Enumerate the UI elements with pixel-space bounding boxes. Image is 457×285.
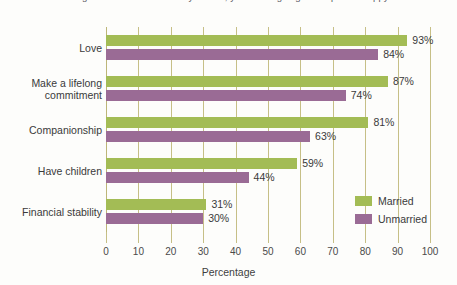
x-tick-100 <box>430 232 431 243</box>
category-label-line: Financial stability <box>0 206 102 218</box>
bar-value-label-unmarried-4: 30% <box>208 213 229 224</box>
bar-value-label-married-0: 93% <box>412 35 433 46</box>
x-tick-label-60: 60 <box>295 246 306 257</box>
x-tick-20 <box>171 232 172 243</box>
bar-married-1[interactable] <box>106 76 388 87</box>
bar-value-label-unmarried-0: 84% <box>383 49 404 60</box>
legend-label-married: Married <box>378 195 414 207</box>
bar-value-label-married-3: 59% <box>302 158 323 169</box>
grouped-bar-chart: 93%84%87%74%81%63%59%44%31%30% 010203040… <box>0 0 457 285</box>
x-tick-label-0: 0 <box>103 246 109 257</box>
bar-married-3[interactable] <box>106 158 297 169</box>
x-tick-label-70: 70 <box>327 246 338 257</box>
bar-value-label-married-4: 31% <box>211 199 232 210</box>
bar-married-2[interactable] <box>106 117 368 128</box>
bar-value-label-married-1: 87% <box>393 76 414 87</box>
category-label-0: Love <box>0 42 102 54</box>
legend-swatch-married-icon <box>355 196 372 206</box>
x-tick-80 <box>365 232 366 243</box>
x-tick-label-30: 30 <box>198 246 209 257</box>
x-tick-label-20: 20 <box>165 246 176 257</box>
x-tick-90 <box>398 232 399 243</box>
y-axis-category-labels: LoveMake a lifelongcommitmentCompanionsh… <box>0 27 102 232</box>
bar-value-label-unmarried-3: 44% <box>254 172 275 183</box>
bar-value-label-unmarried-2: 63% <box>315 131 336 142</box>
chart-legend: Married Unmarried <box>355 193 455 229</box>
legend-label-unmarried: Unmarried <box>378 213 427 225</box>
category-label-3: Have children <box>0 165 102 177</box>
x-tick-label-40: 40 <box>230 246 241 257</box>
x-tick-30 <box>203 232 204 243</box>
x-tick-label-100: 100 <box>422 246 439 257</box>
bar-unmarried-3[interactable] <box>106 172 249 183</box>
x-axis-title: Percentage <box>0 266 457 278</box>
x-tick-60 <box>300 232 301 243</box>
x-tick-label-90: 90 <box>392 246 403 257</box>
x-tick-70 <box>333 232 334 243</box>
legend-item-unmarried[interactable]: Unmarried <box>355 211 455 226</box>
legend-swatch-unmarried-icon <box>355 214 372 224</box>
bar-married-4[interactable] <box>106 199 206 210</box>
x-tick-10 <box>138 232 139 243</box>
category-label-line: Make a lifelong <box>0 77 102 89</box>
category-label-4: Financial stability <box>0 206 102 218</box>
x-tick-50 <box>268 232 269 243</box>
category-label-1: Make a lifelongcommitment <box>0 77 102 101</box>
legend-item-married[interactable]: Married <box>355 193 455 208</box>
category-label-line: Companionship <box>0 124 102 136</box>
x-tick-label-10: 10 <box>133 246 144 257</box>
bar-unmarried-4[interactable] <box>106 213 203 224</box>
bar-unmarried-2[interactable] <box>106 131 310 142</box>
x-tick-label-80: 80 <box>360 246 371 257</box>
bar-married-0[interactable] <box>106 35 407 46</box>
category-label-line: Have children <box>0 165 102 177</box>
bar-value-label-unmarried-1: 74% <box>351 90 372 101</box>
x-tick-0 <box>106 232 107 243</box>
bar-unmarried-0[interactable] <box>106 49 378 60</box>
category-label-line: Love <box>0 42 102 54</box>
bar-value-label-married-2: 81% <box>373 117 394 128</box>
x-tick-40 <box>236 232 237 243</box>
bar-unmarried-1[interactable] <box>106 90 346 101</box>
x-tick-label-50: 50 <box>262 246 273 257</box>
category-label-line: commitment <box>0 89 102 101</box>
category-label-2: Companionship <box>0 124 102 136</box>
